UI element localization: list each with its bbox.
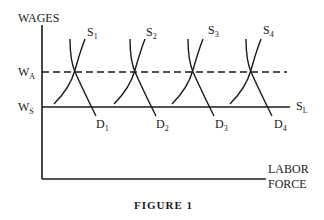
demand-curve-2 (130, 39, 156, 116)
supply-curve-4-label: S4 (263, 24, 274, 38)
x-axis-label-line1: LABOR (268, 163, 309, 175)
supply-curve-2 (114, 39, 145, 104)
x-axis-label-line2: FORCE (268, 178, 307, 190)
demand-curve-1-label: D1 (96, 118, 109, 132)
demand-curve-1 (70, 39, 96, 116)
supply-line-label: SL (296, 100, 308, 114)
supply-curve-1-label: S1 (87, 26, 98, 40)
demand-curve-4 (246, 39, 272, 116)
demand-curve-3 (188, 39, 214, 116)
supply-curve-3-label: S3 (208, 24, 219, 38)
demand-curve-4-label: D4 (274, 118, 287, 132)
curve-pair-1 (54, 39, 96, 116)
wage-a-label: WA (18, 66, 35, 80)
wage-s-label: WS (18, 101, 34, 115)
demand-curve-3-label: D3 (215, 118, 228, 132)
y-axis-label: WAGES (18, 12, 59, 24)
demand-curve-2-label: D2 (156, 118, 169, 132)
curve-pair-2 (114, 39, 156, 116)
figure-caption: FIGURE 1 (134, 199, 193, 211)
supply-curve-2-label: S2 (146, 26, 157, 40)
curve-pair-4 (230, 39, 272, 116)
curve-pair-3 (172, 39, 214, 116)
